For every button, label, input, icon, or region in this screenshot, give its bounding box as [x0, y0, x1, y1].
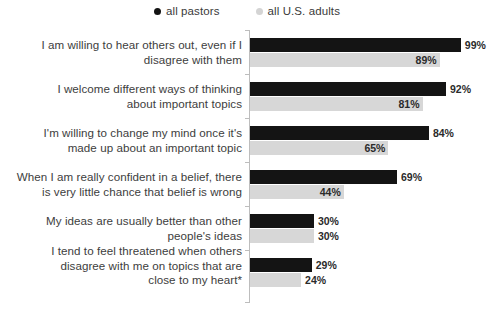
bar-value-all-us-adults: 24% — [305, 273, 326, 287]
category-label-line: close to my heart* — [4, 273, 242, 288]
axis-tick — [245, 206, 250, 207]
bar-value-all-us-adults: 44% — [320, 185, 341, 199]
axis-tick — [245, 30, 250, 31]
bar-value-all-pastors: 92% — [450, 82, 471, 96]
bar-all-pastors — [250, 170, 397, 184]
legend-dot-icon-all-us-adults — [256, 8, 263, 15]
bar-all-pastors — [250, 258, 312, 272]
bar-value-all-us-adults: 65% — [364, 141, 385, 155]
axis-tick — [245, 302, 250, 303]
category-label-line: people's ideas — [4, 229, 242, 244]
category-label-line: is very little chance that belief is wro… — [4, 185, 242, 200]
category-label-line: about important topics — [4, 97, 242, 112]
bar-all-us-adults — [250, 229, 314, 243]
category-label-line: My ideas are usually better than other — [4, 214, 242, 229]
bar-all-us-adults — [250, 97, 423, 111]
category-label-line: disagree with them — [4, 53, 242, 68]
chart-root: all pastors all U.S. adults I am willing… — [0, 0, 494, 313]
legend-dot-icon-all-pastors — [154, 8, 161, 15]
bar-value-all-pastors: 30% — [318, 214, 339, 228]
bar-all-us-adults — [250, 273, 301, 287]
category-label-line: I welcome different ways of thinking — [4, 82, 242, 97]
legend-label-all-pastors: all pastors — [166, 5, 220, 17]
bar-value-all-pastors: 99% — [465, 38, 486, 52]
axis-tick — [245, 118, 250, 119]
legend-item-all-pastors: all pastors — [154, 5, 220, 17]
category-label-line: When I am really confident in a belief, … — [4, 170, 242, 185]
plot-area: I am willing to hear others out, even if… — [0, 26, 494, 313]
bar-all-us-adults — [250, 53, 440, 67]
bar-all-pastors — [250, 214, 314, 228]
category-label: I'm willing to change my mind once it's … — [4, 126, 242, 155]
bar-value-all-us-adults: 81% — [399, 97, 420, 111]
category-label: I welcome different ways of thinking abo… — [4, 82, 242, 111]
category-label: I am willing to hear others out, even if… — [4, 38, 242, 67]
legend-label-all-us-adults: all U.S. adults — [268, 5, 340, 17]
category-label-line: I'm willing to change my mind once it's — [4, 126, 242, 141]
bar-value-all-us-adults: 89% — [416, 53, 437, 67]
bar-all-pastors — [250, 126, 429, 140]
bar-value-all-pastors: 69% — [401, 170, 422, 184]
bar-all-pastors — [250, 38, 461, 52]
bar-value-all-pastors: 29% — [316, 258, 337, 272]
category-label: My ideas are usually better than other p… — [4, 214, 242, 243]
bar-value-all-us-adults: 30% — [318, 229, 339, 243]
axis-tick — [245, 250, 250, 251]
category-label-line: I tend to feel threatened when others — [4, 244, 242, 259]
axis-tick — [245, 74, 250, 75]
category-label-line: disagree with me on topics that are — [4, 259, 242, 274]
category-label-line: I am willing to hear others out, even if… — [4, 38, 242, 53]
bar-all-pastors — [250, 82, 446, 96]
category-label: When I am really confident in a belief, … — [4, 170, 242, 199]
bar-value-all-pastors: 84% — [433, 126, 454, 140]
chart-legend: all pastors all U.S. adults — [0, 2, 494, 20]
axis-tick — [245, 162, 250, 163]
legend-item-all-us-adults: all U.S. adults — [256, 5, 340, 17]
category-label-line: made up about an important topic — [4, 141, 242, 156]
category-label: I tend to feel threatened when others di… — [4, 244, 242, 288]
